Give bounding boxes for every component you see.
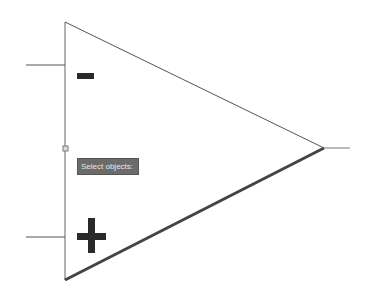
command-tooltip: Select objects: xyxy=(77,158,139,175)
plus-sign-icon-vertical xyxy=(88,218,95,253)
triangle-top-edge[interactable] xyxy=(65,22,324,148)
minus-sign-icon xyxy=(77,73,94,79)
drawing-canvas[interactable] xyxy=(0,0,369,300)
grip-handle[interactable] xyxy=(63,146,68,151)
